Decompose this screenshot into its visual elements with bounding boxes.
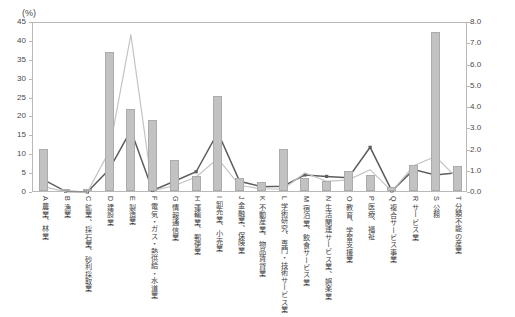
category-name: 生活関連サービス業、娯楽業 xyxy=(324,204,333,300)
bar xyxy=(453,166,462,191)
category-code: K xyxy=(258,196,267,204)
right-axis-tick-label: 0.0 xyxy=(470,188,496,196)
right-axis-tick-label: 8.0 xyxy=(470,18,496,26)
right-axis-tick-label: 3.0 xyxy=(470,124,496,132)
right-axis-tick-mark xyxy=(467,128,470,129)
category-label: R サービス業 xyxy=(406,196,420,241)
bar xyxy=(344,171,353,191)
category-name: 教育、学習支援業 xyxy=(345,204,354,263)
bar xyxy=(61,189,70,191)
category-label: C 鉱業、採石業、砂利採取業 xyxy=(79,196,93,293)
bar xyxy=(431,32,440,191)
left-axis-tick-mark xyxy=(29,116,32,117)
left-axis-tick-label: 20 xyxy=(4,112,26,120)
bar xyxy=(409,165,418,191)
category-code: M xyxy=(302,196,311,205)
bar xyxy=(83,189,92,191)
category-code: S xyxy=(432,196,441,204)
category-label: Q 複合サービス事業 xyxy=(384,196,398,264)
left-axis-tick-label: 15 xyxy=(4,131,26,139)
category-name: 鉱業、採石業、砂利採取業 xyxy=(84,204,93,293)
left-axis-tick-label: 45 xyxy=(4,18,26,26)
bar xyxy=(170,160,179,191)
category-name: サービス業 xyxy=(411,204,420,241)
left-axis-tick-mark xyxy=(29,192,32,193)
category-name: 製造業 xyxy=(128,204,137,226)
left-axis-tick-label: 25 xyxy=(4,94,26,102)
bar xyxy=(322,181,331,191)
category-name: 建設業 xyxy=(106,204,115,226)
left-axis-tick-label: 0 xyxy=(4,188,26,196)
left-axis-tick-label: 5 xyxy=(4,169,26,177)
category-label: E 製造業 xyxy=(123,196,137,226)
left-axis-tick-mark xyxy=(29,98,32,99)
category-name: 運輸業、郵便業 xyxy=(193,204,202,256)
category-label: J 金融業、保険業 xyxy=(232,196,246,254)
category-label: P 医療、福祉 xyxy=(362,196,376,240)
category-name: 不動産業、物品賃貸業 xyxy=(258,204,267,278)
line-marker xyxy=(369,146,372,149)
right-axis-tick-mark xyxy=(467,22,470,23)
left-axis-tick-mark xyxy=(29,41,32,42)
category-name: 学術研究、専門・技術サービス業 xyxy=(280,203,289,314)
category-code: R xyxy=(411,196,420,204)
right-axis-tick-label: 2.0 xyxy=(470,146,496,154)
category-name: 漁業 xyxy=(63,204,72,219)
category-name: 農業、林業 xyxy=(41,203,50,240)
category-label: M 宿泊業、飲食サービス業 xyxy=(297,196,311,286)
category-axis-labels: A 農業、林業B 漁業C 鉱業、採石業、砂利採取業D 建設業E 製造業F 電気・… xyxy=(32,196,467,314)
chart-root: (%) 454035302520151050 8.07.06.05.04.03.… xyxy=(0,0,515,317)
right-axis-tick-mark xyxy=(467,171,470,172)
category-name: 電気・ガス・熱供給・水道業 xyxy=(150,203,159,299)
bar xyxy=(366,175,375,191)
left-axis-tick-mark xyxy=(29,173,32,174)
right-axis-tick-mark xyxy=(467,150,470,151)
category-name: 公務 xyxy=(432,204,441,219)
right-axis-tick-mark xyxy=(467,192,470,193)
category-label: B 漁業 xyxy=(58,196,72,218)
left-axis-tick-mark xyxy=(29,60,32,61)
category-label: O 教育、学習支援業 xyxy=(340,196,354,264)
category-code: E xyxy=(128,196,137,204)
category-name: 卸売業、小売業 xyxy=(215,201,224,253)
category-label: H 運輸業、郵便業 xyxy=(188,196,202,256)
left-axis-tick-mark xyxy=(29,22,32,23)
plot-area xyxy=(32,22,467,192)
bar xyxy=(279,149,288,191)
bar xyxy=(300,178,309,191)
category-label: L 学術研究、専門・技術サービス業 xyxy=(275,196,289,314)
category-label: I 卸売業、小売業 xyxy=(210,196,224,253)
right-axis-tick-mark xyxy=(467,86,470,87)
category-label: K 不動産業、物品賃貸業 xyxy=(253,196,267,278)
category-name: 金融業、保険業 xyxy=(237,202,246,254)
right-axis-tick-mark xyxy=(467,107,470,108)
category-code: C xyxy=(84,196,93,204)
line-marker xyxy=(325,175,328,178)
bar xyxy=(387,187,396,191)
category-name: 分類不能の産業 xyxy=(454,203,463,255)
left-axis-tick-mark xyxy=(29,79,32,80)
category-name: 宿泊業、飲食サービス業 xyxy=(302,205,311,286)
category-name: 情報通信業 xyxy=(171,204,180,241)
left-axis-tick-label: 35 xyxy=(4,56,26,64)
category-code: D xyxy=(106,196,115,204)
left-axis-tick-label: 40 xyxy=(4,37,26,45)
left-axis-tick-label: 10 xyxy=(4,150,26,158)
category-code: N xyxy=(324,196,333,204)
bar xyxy=(105,52,114,191)
bar xyxy=(257,182,266,191)
right-axis-tick-label: 1.0 xyxy=(470,167,496,175)
left-axis-tick-mark xyxy=(29,154,32,155)
left-axis-tick-mark xyxy=(29,135,32,136)
left-axis-tick-label: 30 xyxy=(4,75,26,83)
category-label: D 建設業 xyxy=(101,196,115,226)
right-axis-tick-label: 4.0 xyxy=(470,103,496,111)
category-name: 複合サービス事業 xyxy=(389,204,398,263)
category-label: F 電気・ガス・熱供給・水道業 xyxy=(145,196,159,299)
right-axis-tick-mark xyxy=(467,65,470,66)
bar xyxy=(39,149,48,191)
right-axis-tick-mark xyxy=(467,43,470,44)
right-axis-tick-label: 6.0 xyxy=(470,61,496,69)
category-label: N 生活関連サービス業、娯楽業 xyxy=(319,196,333,300)
category-label: G 情報通信業 xyxy=(166,196,180,241)
